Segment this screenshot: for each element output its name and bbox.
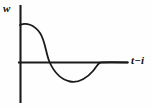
plot-background <box>0 0 152 108</box>
x-axis-label: t−i <box>131 55 144 66</box>
y-axis-label: w <box>3 3 10 14</box>
plot-canvas <box>0 0 152 108</box>
waveform-figure: w t−i <box>0 0 152 108</box>
